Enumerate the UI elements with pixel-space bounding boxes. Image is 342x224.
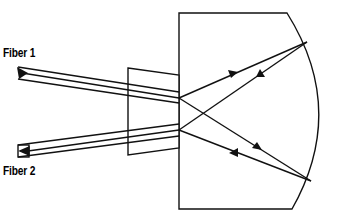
optical-diagram	[0, 0, 342, 224]
ray-out-2	[179, 98, 311, 181]
arrow-icon	[252, 142, 262, 150]
ray-out-1	[179, 42, 307, 98]
ray-return-2	[179, 130, 311, 181]
ray-return-1	[179, 42, 307, 130]
arrow-icon	[228, 70, 238, 78]
arrow-icon	[256, 69, 265, 77]
